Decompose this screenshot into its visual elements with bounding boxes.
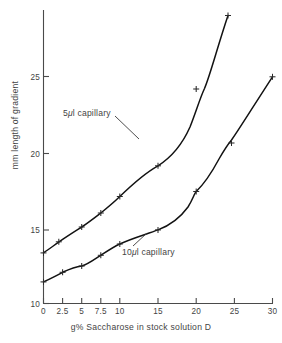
marker-plus [225, 13, 231, 19]
x-tick-label-2-5: 2.5 [57, 307, 69, 316]
y-tick-label-20: 20 [23, 149, 40, 158]
series-label-10ul-text: 10 [122, 247, 132, 257]
x-axis-title: g% Saccharose in stock solution D [0, 322, 282, 332]
x-tick-label-25: 25 [230, 307, 240, 316]
marker-plus [193, 86, 199, 92]
x-tick-label-0: 0 [41, 307, 46, 316]
axis-lines [44, 10, 274, 304]
series-label-10ul: 10μl capillary [122, 247, 175, 257]
plot-canvas [0, 0, 282, 343]
marker-plus [60, 269, 66, 275]
leader-line-10ul [133, 233, 147, 246]
x-tick-label-10: 10 [115, 307, 125, 316]
curve-5ul [44, 16, 229, 253]
x-tick-label-5: 5 [79, 307, 84, 316]
series-label-5ul: 5μl capillary [63, 108, 111, 118]
y-tick-label-15: 15 [23, 226, 40, 235]
y-axis-title: mm length of gradient [10, 60, 20, 190]
series-label-10ul-tail: l capillary [137, 247, 175, 257]
annotation-leader-lines [115, 116, 147, 246]
x-tick-label-15: 15 [153, 307, 163, 316]
markers-5ul [41, 13, 232, 256]
x-tick-label-30: 30 [268, 307, 278, 316]
series-label-5ul-tail: l capillary [73, 108, 111, 118]
marker-plus [155, 227, 161, 233]
leader-line-5ul [115, 116, 139, 139]
marker-plus [79, 263, 85, 269]
y-tick-label-10: 10 [23, 299, 40, 308]
data-curves [44, 16, 273, 282]
chart-figure: 0 2.5 5 7.5 10 15 20 25 30 10 15 20 25 g… [0, 0, 282, 343]
x-tick-label-7-5: 7.5 [95, 307, 107, 316]
x-axis-ticks [44, 298, 273, 304]
y-axis-ticks [44, 77, 50, 304]
x-tick-label-20: 20 [191, 307, 201, 316]
marker-plus [41, 279, 47, 285]
y-tick-label-25: 25 [23, 72, 40, 81]
marker-plus [229, 140, 235, 146]
